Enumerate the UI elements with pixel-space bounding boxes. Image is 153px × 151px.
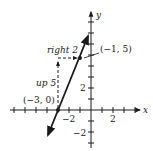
y-tick-label-2: 2 — [80, 83, 86, 93]
y-axis-label: y — [95, 10, 102, 20]
point-neg1-5 — [78, 56, 82, 60]
slope-guides — [58, 58, 77, 108]
x-axis-label: x — [143, 105, 148, 115]
y-axis: y 2 −2 — [73, 10, 102, 148]
coordinate-plane: x −2 2 y 2 −2 (−1, 5) ( — [0, 0, 153, 151]
point-label-neg3-0: (−3, 0) — [23, 95, 55, 105]
x-tick-label-neg2: −2 — [62, 114, 75, 124]
point-neg3-0 — [56, 108, 60, 112]
x-tick-label-2: 2 — [110, 114, 116, 124]
y-tick-label-neg2: −2 — [73, 128, 86, 138]
rise-label: up 5 — [36, 78, 56, 88]
x-axis: x −2 2 — [10, 105, 148, 124]
point-label-neg1-5: (−1, 5) — [100, 44, 132, 54]
run-label: right 2 — [47, 45, 78, 55]
